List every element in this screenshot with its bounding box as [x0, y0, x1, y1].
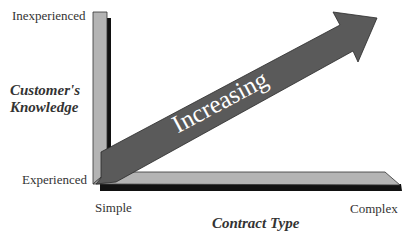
y-axis-title-line1: Customer's — [10, 82, 80, 99]
y-axis-title-line2: Knowledge — [10, 99, 80, 116]
y-axis-top-label: Inexperienced — [12, 8, 86, 24]
x-axis-bar — [93, 172, 400, 185]
y-axis-bottom-label: Experienced — [22, 172, 87, 188]
knowledge-contract-diagram: Inexperienced Customer's Knowledge Exper… — [0, 0, 407, 241]
x-axis-right-label: Complex — [350, 201, 398, 217]
x-axis-left-label: Simple — [95, 200, 132, 216]
x-axis-title: Contract Type — [212, 215, 299, 232]
y-axis-title: Customer's Knowledge — [10, 82, 80, 116]
